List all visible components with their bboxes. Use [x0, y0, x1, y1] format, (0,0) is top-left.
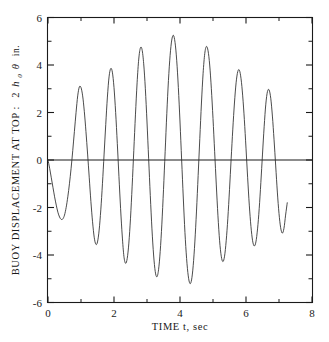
chart-figure: 02468 -6-4-20246 TIME t, sec BUOY DISPLA…	[0, 0, 329, 342]
x-tick-label: 8	[309, 307, 315, 319]
y-axis-title: BUOY DISPLACEMENT AT TOP : 2 h 0 θ in.	[10, 45, 24, 276]
y-tick-label: -4	[33, 249, 43, 261]
svg-text:BUOY DISPLACEMENT AT TOP :: BUOY DISPLACEMENT AT TOP : 2 h 0 θ in.	[10, 45, 24, 276]
y-tick-label: 2	[37, 107, 43, 119]
y-axis-title-symbol-h: h	[10, 81, 21, 87]
y-axis-title-symbol-h-subscript: 0	[16, 74, 24, 78]
y-axis-title-units: in.	[11, 45, 21, 57]
y-tick-label: -6	[33, 297, 43, 309]
x-axis-tick-labels: 02468	[45, 307, 315, 319]
y-tick-label: 6	[37, 12, 43, 24]
x-tick-label: 6	[243, 307, 249, 319]
y-tick-label: 4	[37, 59, 43, 71]
y-axis-tick-labels: -6-4-20246	[33, 12, 43, 309]
y-tick-label: 0	[37, 154, 43, 166]
x-tick-label: 0	[45, 307, 51, 319]
chart-canvas: 02468 -6-4-20246 TIME t, sec BUOY DISPLA…	[0, 0, 329, 342]
y-axis-title-symbol-theta: θ	[10, 64, 21, 70]
y-axis-title-coefficient: 2	[10, 92, 21, 98]
y-tick-label: -2	[33, 202, 42, 214]
x-tick-label: 2	[111, 307, 117, 319]
y-axis-title-main: BUOY DISPLACEMENT AT TOP :	[10, 106, 21, 275]
x-tick-label: 4	[177, 307, 183, 319]
x-axis-title: TIME t, sec	[152, 321, 208, 332]
